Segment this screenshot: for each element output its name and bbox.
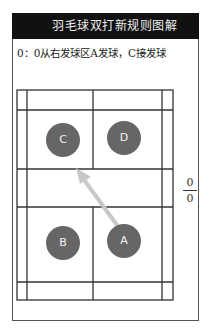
serve-arrow bbox=[76, 168, 122, 232]
player-d: D bbox=[107, 121, 141, 155]
player-b: B bbox=[46, 226, 80, 260]
score-bottom: 0 bbox=[183, 192, 197, 205]
score-divider bbox=[183, 190, 197, 191]
score-fraction: 0 0 bbox=[183, 176, 197, 205]
player-c: C bbox=[46, 123, 80, 157]
badminton-court bbox=[0, 0, 210, 332]
player-a: A bbox=[107, 224, 141, 258]
score-top: 0 bbox=[183, 176, 197, 189]
